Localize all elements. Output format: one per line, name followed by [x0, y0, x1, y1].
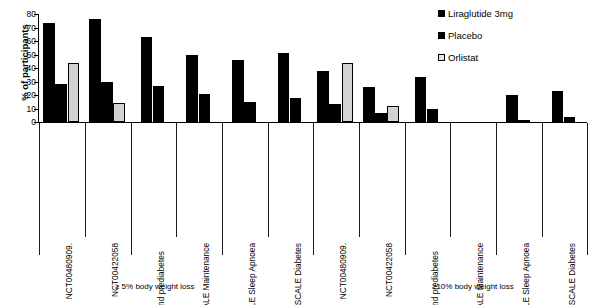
category-divider [176, 123, 177, 237]
y-axis-tick-label: 10 [16, 104, 36, 113]
legend-item: Orlistat [438, 52, 588, 63]
legend-item: Liraglutide 3mg [438, 8, 588, 19]
category-divider [450, 123, 451, 237]
x-axis-category-label: SCALE Maintenance [202, 243, 210, 305]
y-axis-tick-label: 20 [16, 91, 36, 100]
bar-plac [375, 113, 387, 122]
bar-orli [387, 106, 399, 122]
bar-lira [317, 71, 329, 122]
bar-lira [278, 53, 290, 122]
group-label: ≥10% body weight loss [432, 282, 514, 291]
bar-plac [329, 104, 341, 122]
category-divider [359, 123, 360, 237]
y-axis-tick-label: 60 [16, 37, 36, 46]
y-axis-tick-label: 80 [16, 10, 36, 19]
group-label: ≥ 5% body weight loss [115, 282, 195, 291]
bar-lira [43, 23, 55, 122]
bar-chart: % of participants 01020304050607080 NCT0… [0, 0, 591, 305]
bar-plac [101, 82, 113, 123]
y-axis-tick-label: 40 [16, 64, 36, 73]
x-axis-category-label: NCT00480909. [65, 243, 73, 299]
bar-group [39, 14, 85, 122]
category-divider [587, 123, 588, 255]
bar-lira [552, 91, 564, 122]
bar-orli [342, 63, 354, 122]
legend-label: Liraglutide 3mg [448, 8, 513, 19]
bar-lira [141, 37, 153, 122]
y-axis-tick-mark [34, 41, 38, 42]
legend-swatch-icon [438, 32, 445, 39]
y-axis-tick-label: 30 [16, 77, 36, 86]
bar-plac [427, 109, 439, 123]
bar-group [131, 14, 177, 122]
x-axis-category-label: NCT00422058 [385, 243, 393, 297]
bar-plac [55, 84, 67, 122]
x-axis-category-label: SCALE Sleep Apnoea [522, 243, 530, 305]
category-divider [131, 123, 132, 255]
x-axis-category-label: SCALE Diabetes [294, 243, 302, 305]
category-divider [39, 123, 40, 255]
y-axis-tick-mark [34, 28, 38, 29]
bar-group [176, 14, 222, 122]
legend-label: Orlistat [448, 52, 478, 63]
y-axis-tick-label: 50 [16, 50, 36, 59]
bar-orli [113, 103, 125, 122]
y-axis-tick-mark [34, 95, 38, 96]
bar-lira [415, 77, 427, 122]
bar-group [359, 14, 405, 122]
x-axis-category-label: SCALE Maintenance [476, 243, 484, 305]
bar-group [268, 14, 314, 122]
bar-group [222, 14, 268, 122]
category-divider [85, 123, 86, 237]
chart-legend: Liraglutide 3mgPlaceboOrlistat [438, 8, 588, 74]
category-divider [268, 123, 269, 237]
y-axis-tick-mark [34, 68, 38, 69]
category-divider [496, 123, 497, 255]
category-divider [405, 123, 406, 255]
legend-swatch-icon [438, 54, 445, 61]
category-divider [222, 123, 223, 255]
bar-plac [153, 86, 165, 122]
y-axis-tick-labels: 01020304050607080 [16, 12, 36, 126]
bar-lira [89, 19, 101, 122]
y-axis-tick-mark [34, 14, 38, 15]
category-divider [542, 123, 543, 237]
y-axis-tick-mark [34, 109, 38, 110]
bar-lira [186, 55, 198, 123]
legend-label: Placebo [448, 30, 482, 41]
category-label-area: NCT00480909.NCT00422058SCALE Obesity and… [0, 123, 591, 283]
bar-lira [363, 87, 375, 122]
x-axis-category-label: SCALE Diabetes [568, 243, 576, 305]
x-axis-category-label: SCALE Obesity and prediabetes [157, 251, 165, 305]
x-axis-category-label: SCALE Sleep Apnoea [248, 243, 256, 305]
y-axis-tick-label: 70 [16, 23, 36, 32]
y-axis-tick-mark [34, 82, 38, 83]
bar-plac [199, 94, 211, 122]
bar-group [313, 14, 359, 122]
bar-orli [68, 63, 80, 122]
bar-plac [290, 98, 302, 122]
bar-lira [232, 60, 244, 122]
bar-group [85, 14, 131, 122]
x-axis-category-label: NCT00480909. [339, 243, 347, 299]
y-axis-tick-mark [34, 122, 38, 123]
bar-lira [506, 95, 518, 122]
bar-plac [244, 102, 256, 122]
x-axis-category-label: SCALE Obesity and prediabetes [431, 251, 439, 305]
category-divider [313, 123, 314, 255]
y-axis-tick-mark [34, 55, 38, 56]
legend-item: Placebo [438, 30, 588, 41]
legend-swatch-icon [438, 10, 445, 17]
